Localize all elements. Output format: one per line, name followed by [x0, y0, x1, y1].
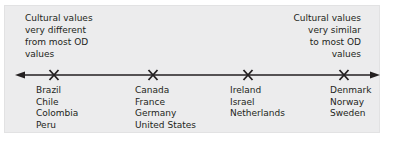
cultural-values-continuum-figure: Cultural values very different from most…: [4, 5, 380, 133]
arrow-right-icon: [370, 72, 380, 79]
country-group-3: Ireland Israel Netherlands: [230, 85, 285, 120]
country-group-2: Canada France Germany United States: [135, 85, 196, 131]
arrow-left-icon: [15, 72, 25, 79]
country-group-1: Brazil Chile Colombia Peru: [36, 85, 78, 131]
country-group-4: Denmark Norway Sweden: [330, 85, 371, 120]
